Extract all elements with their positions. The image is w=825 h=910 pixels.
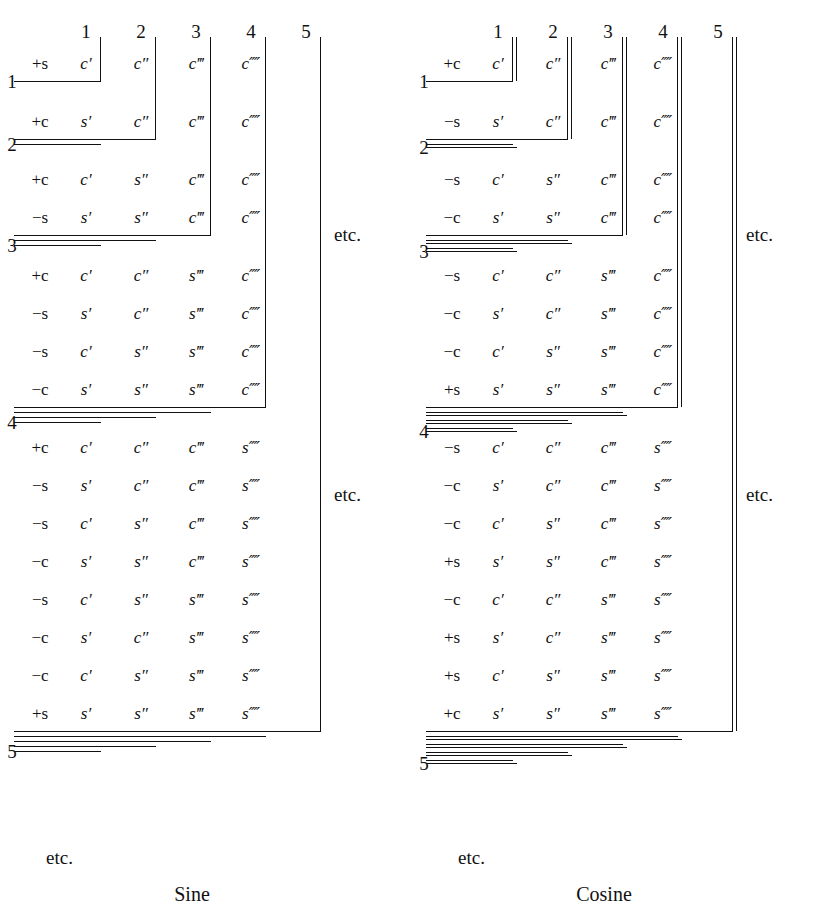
term-cell: c⁗ xyxy=(639,55,687,72)
column-rule-5 xyxy=(320,37,321,731)
term-cell: c⁗ xyxy=(227,343,275,360)
term-sign: −s xyxy=(16,209,64,226)
term-sign: +c xyxy=(16,439,64,456)
column-header-2: 2 xyxy=(540,22,566,41)
term-cell: s‴ xyxy=(172,381,220,398)
etc-label-right-2: etc. xyxy=(334,485,361,504)
bracket-close-rule xyxy=(426,760,513,761)
bracket-close-rule xyxy=(426,736,678,737)
column-header-1: 1 xyxy=(73,22,99,41)
term-cell: c⁗ xyxy=(227,171,275,188)
column-rule-2 xyxy=(571,37,572,139)
term-cell: s′ xyxy=(474,209,522,226)
term-cell: s′ xyxy=(62,381,110,398)
term-sign: −s xyxy=(16,477,64,494)
term-cell: c′ xyxy=(62,267,110,284)
term-sign: +s xyxy=(16,55,64,72)
term-cell: c′ xyxy=(62,171,110,188)
column-header-5: 5 xyxy=(293,22,319,41)
term-cell: c⁗ xyxy=(639,381,687,398)
term-sign: −c xyxy=(16,553,64,570)
term-cell: c″ xyxy=(529,267,577,284)
bracket-close-rule xyxy=(426,755,572,756)
term-cell: s⁗ xyxy=(227,553,275,570)
term-cell: s‴ xyxy=(584,343,632,360)
term-cell: c‴ xyxy=(172,113,220,130)
term-sign: −c xyxy=(428,591,476,608)
bracket-close-rule xyxy=(426,739,682,740)
group-index-5: 5 xyxy=(414,754,434,773)
group-bracket-hline xyxy=(14,139,156,140)
column-header-5: 5 xyxy=(705,22,731,41)
term-cell: c⁗ xyxy=(227,209,275,226)
column-header-1: 1 xyxy=(485,22,511,41)
term-cell: s‴ xyxy=(172,343,220,360)
term-cell: s‴ xyxy=(584,305,632,322)
term-cell: s‴ xyxy=(584,667,632,684)
term-cell: s′ xyxy=(474,553,522,570)
term-sign: +c xyxy=(428,55,476,72)
term-sign: −s xyxy=(16,343,64,360)
term-cell: s‴ xyxy=(172,705,220,722)
term-cell: s⁗ xyxy=(639,439,687,456)
term-cell: c″ xyxy=(529,113,577,130)
bracket-close-rule xyxy=(426,744,623,745)
term-cell: c″ xyxy=(529,629,577,646)
bracket-close-rule xyxy=(426,431,517,432)
term-sign: −c xyxy=(428,343,476,360)
term-cell: s‴ xyxy=(172,591,220,608)
term-sign: −s xyxy=(16,591,64,608)
bracket-close-rule xyxy=(14,412,211,413)
term-cell: s‴ xyxy=(172,305,220,322)
term-sign: −c xyxy=(428,477,476,494)
term-sign: −s xyxy=(428,113,476,130)
etc-label-right-2: etc. xyxy=(746,485,773,504)
etc-label-right: etc. xyxy=(746,225,773,244)
bracket-close-rule xyxy=(14,746,156,747)
term-cell: s′ xyxy=(62,113,110,130)
term-cell: c⁗ xyxy=(639,305,687,322)
column-rule-2 xyxy=(567,37,568,139)
term-cell: c″ xyxy=(117,305,165,322)
bracket-close-rule xyxy=(426,420,568,421)
term-cell: s⁗ xyxy=(227,439,275,456)
bracket-close-rule xyxy=(426,243,572,244)
term-cell: c‴ xyxy=(584,477,632,494)
term-sign: −s xyxy=(428,267,476,284)
group-index-1: 1 xyxy=(414,72,434,91)
term-cell: c⁗ xyxy=(227,305,275,322)
term-cell: c⁗ xyxy=(227,381,275,398)
group-bracket-hline xyxy=(426,731,733,732)
term-cell: c′ xyxy=(62,515,110,532)
term-cell: s″ xyxy=(529,667,577,684)
term-cell: c′ xyxy=(62,55,110,72)
term-cell: s″ xyxy=(117,343,165,360)
term-cell: s⁗ xyxy=(639,553,687,570)
term-cell: s⁗ xyxy=(639,477,687,494)
term-cell: c‴ xyxy=(584,113,632,130)
term-cell: s′ xyxy=(474,381,522,398)
group-index-2: 2 xyxy=(2,135,22,154)
term-cell: c′ xyxy=(474,343,522,360)
bracket-close-rule xyxy=(426,144,513,145)
term-cell: c′ xyxy=(474,439,522,456)
term-cell: s″ xyxy=(529,209,577,226)
term-cell: s′ xyxy=(474,305,522,322)
panel-caption: Sine xyxy=(112,884,272,904)
term-cell: c⁗ xyxy=(639,209,687,226)
term-cell: s′ xyxy=(62,629,110,646)
term-cell: c′ xyxy=(474,515,522,532)
group-bracket-hline xyxy=(426,407,678,408)
term-cell: c‴ xyxy=(172,171,220,188)
term-cell: c‴ xyxy=(584,171,632,188)
term-cell: c⁗ xyxy=(639,343,687,360)
bracket-close-rule xyxy=(426,752,568,753)
term-cell: c′ xyxy=(474,667,522,684)
term-cell: c⁗ xyxy=(639,113,687,130)
term-sign: +s xyxy=(428,553,476,570)
term-cell: s′ xyxy=(62,553,110,570)
term-cell: s″ xyxy=(117,381,165,398)
term-cell: s′ xyxy=(474,705,522,722)
term-cell: s″ xyxy=(117,705,165,722)
term-cell: s‴ xyxy=(584,629,632,646)
